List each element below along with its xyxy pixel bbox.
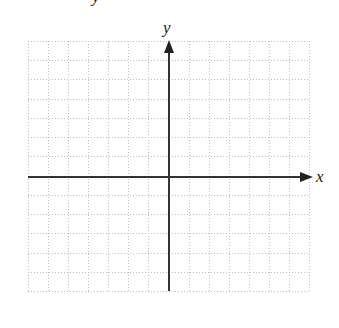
y-axis-label: y <box>163 19 171 36</box>
x-axis-arrow-icon <box>300 172 313 182</box>
coordinate-plane <box>0 0 339 328</box>
x-axis-label: x <box>316 168 324 185</box>
